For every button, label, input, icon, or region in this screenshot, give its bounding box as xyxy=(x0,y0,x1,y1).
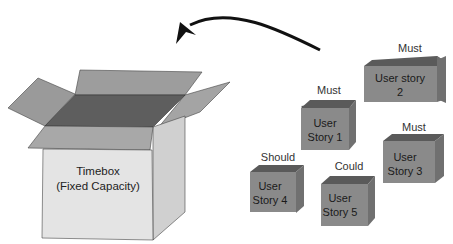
story-1-priority: Must xyxy=(317,84,341,97)
story-2-priority: Must xyxy=(398,42,422,55)
story-2-label-line2: 2 xyxy=(397,86,403,99)
story-5-label-line1: User xyxy=(328,192,351,205)
story-3-label-line1: User xyxy=(393,151,416,164)
story-1-label-line1: User xyxy=(313,117,336,130)
story-3-label-line2: Story 3 xyxy=(388,165,423,178)
timebox-subtitle: (Fixed Capacity) xyxy=(56,179,140,194)
story-4-label-line1: User xyxy=(258,180,281,193)
story-2-label-line1: User story xyxy=(375,72,425,85)
diagram-canvas xyxy=(0,0,453,244)
story-4-priority: Should xyxy=(261,151,295,164)
story-4-label-line2: Story 4 xyxy=(253,194,288,207)
timebox-title: Timebox xyxy=(76,164,120,179)
curved-arrow-icon xyxy=(176,18,320,50)
timebox-box xyxy=(8,70,230,240)
story-3-priority: Must xyxy=(402,121,426,134)
story-5-label-line2: Story 5 xyxy=(323,206,358,219)
story-1-label-line2: Story 1 xyxy=(308,131,343,144)
story-5-priority: Could xyxy=(335,160,364,173)
